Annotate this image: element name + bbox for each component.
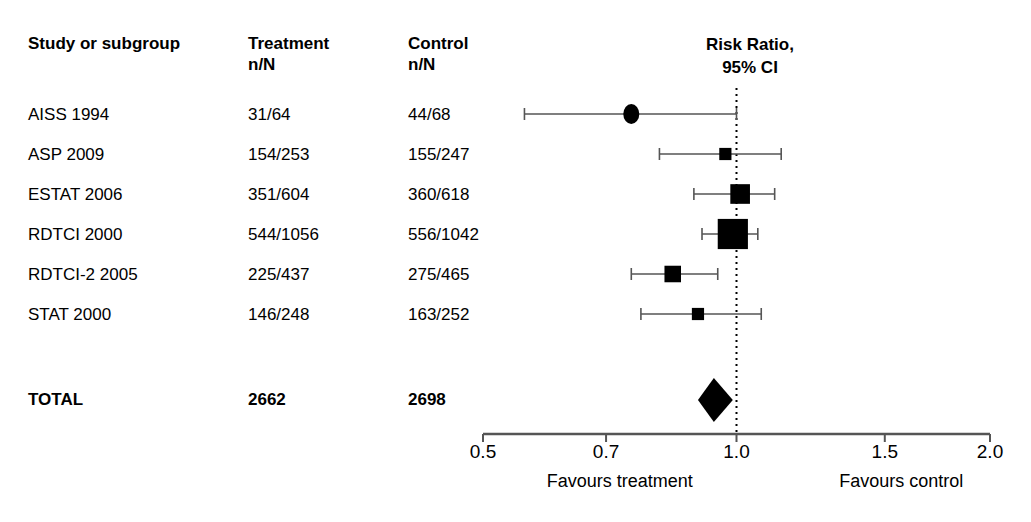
effect-marker-square: [664, 266, 681, 283]
table-cell-study: ASP 2009: [28, 144, 104, 165]
axis-tick-label-1: 0.7: [593, 441, 619, 463]
favours-control-label: Favours control: [839, 470, 963, 492]
table-cell-control: 360/618: [408, 184, 469, 205]
plot-row-6: [641, 308, 761, 320]
effect-marker-square: [719, 148, 731, 160]
table-cell-control: 556/1042: [408, 224, 479, 245]
column-header-treatment: Treatment n/N: [248, 33, 329, 75]
table-cell-study: ESTAT 2006: [28, 184, 123, 205]
effect-marker-circle: [623, 104, 639, 124]
plot-row-5: [631, 266, 717, 283]
axis-tick-label-3: 1.5: [872, 441, 898, 463]
table-cell-treatment: 544/1056: [248, 224, 319, 245]
plot-row-4: [702, 219, 758, 249]
axis-tick-label-2: 1.0: [723, 441, 749, 463]
plot-markers: [524, 88, 781, 434]
table-cell-control: 44/68: [408, 104, 451, 125]
plot-row-1: [524, 104, 736, 124]
table-cell-study: AISS 1994: [28, 104, 109, 125]
axis-tick-label-4: 2.0: [977, 441, 1003, 463]
total-cell-control: 2698: [408, 389, 446, 410]
table-cell-treatment: 225/437: [248, 264, 309, 285]
table-cell-treatment: 154/253: [248, 144, 309, 165]
forest-plot-figure: Study or subgroup Treatment n/N Control …: [0, 0, 1031, 522]
table-cell-treatment: 351/604: [248, 184, 309, 205]
plot-title: Risk Ratio, 95% CI: [600, 33, 900, 79]
plot-row-2: [659, 148, 781, 160]
favours-treatment-label: Favours treatment: [547, 470, 693, 492]
table-cell-study: RDTCI-2 2005: [28, 264, 138, 285]
table-cell-treatment: 31/64: [248, 104, 291, 125]
plot-row-3: [694, 184, 775, 204]
column-header-control: Control n/N: [408, 33, 468, 75]
column-header-study: Study or subgroup: [28, 33, 180, 54]
table-cell-control: 275/465: [408, 264, 469, 285]
table-cell-treatment: 146/248: [248, 304, 309, 325]
table-cell-control: 155/247: [408, 144, 469, 165]
effect-marker-square: [730, 184, 750, 204]
effect-marker-square: [692, 308, 704, 320]
total-cell-study: TOTAL: [28, 389, 83, 410]
effect-marker-square: [718, 219, 748, 249]
total-cell-treatment: 2662: [248, 389, 286, 410]
table-cell-study: RDTCI 2000: [28, 224, 122, 245]
table-cell-study: STAT 2000: [28, 304, 111, 325]
summary-diamond: [698, 378, 733, 422]
table-cell-control: 163/252: [408, 304, 469, 325]
axis-tick-label-0: 0.5: [470, 441, 496, 463]
